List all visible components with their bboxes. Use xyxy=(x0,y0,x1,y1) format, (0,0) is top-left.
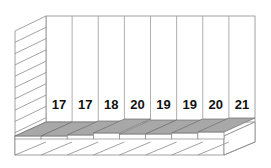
bar-front-face xyxy=(15,136,41,139)
value-label: 21 xyxy=(235,97,249,112)
value-label: 17 xyxy=(78,97,92,112)
value-label: 20 xyxy=(209,97,223,112)
bar-chart-3d: 1717182019192021 xyxy=(0,0,271,168)
value-label: 19 xyxy=(156,97,170,112)
value-label: 17 xyxy=(52,97,66,112)
bar-front-face xyxy=(172,133,198,139)
bar-front-face xyxy=(198,132,224,139)
bar-front-face xyxy=(93,133,119,139)
bar-front-face xyxy=(146,134,172,139)
bar-front-face xyxy=(67,135,93,139)
bar-front-face xyxy=(41,136,67,139)
value-label: 18 xyxy=(104,97,118,112)
bar-front-face xyxy=(120,134,146,139)
value-label: 19 xyxy=(182,97,196,112)
value-label: 20 xyxy=(130,97,144,112)
